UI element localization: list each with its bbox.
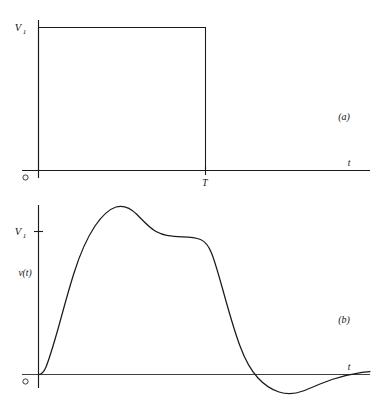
panel-a: V 1 T t (a)	[15, 20, 370, 188]
panel-b: V 1 v(t) t (b)	[15, 205, 370, 394]
panel-b-label: (b)	[338, 314, 350, 326]
panel-a-origin-marker	[23, 175, 28, 180]
figure-root: V 1 T t (a) V 1 v(t) t (b)	[0, 0, 381, 403]
panel-b-y-axis-label-subscript: 1	[23, 232, 27, 240]
panel-a-x-axis-label: t	[348, 158, 351, 168]
panel-a-y-axis-label: V	[15, 22, 23, 33]
panel-b-x-axis-label: t	[348, 362, 351, 372]
panel-a-pulse-end-label: T	[202, 178, 208, 188]
panel-b-origin-marker	[23, 379, 28, 384]
panel-b-y-axis-label: V	[15, 226, 23, 237]
panel-a-label: (a)	[338, 111, 350, 123]
figure-canvas: V 1 T t (a) V 1 v(t) t (b)	[0, 0, 381, 403]
panel-b-signal-label: v(t)	[18, 268, 31, 279]
panel-a-pulse-trace	[39, 28, 206, 171]
panel-b-response-trace	[39, 206, 371, 393]
panel-a-y-axis-label-subscript: 1	[23, 28, 27, 36]
